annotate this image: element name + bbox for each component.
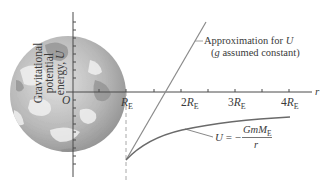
tick-label-4RE: 4RE	[281, 96, 299, 111]
approximation-line	[126, 22, 206, 160]
x-axis-symbol: r	[315, 85, 320, 97]
svg-text:U = −: U = −	[215, 131, 241, 143]
tick-label-2RE: 2RE	[181, 96, 199, 111]
formula-leader	[185, 129, 213, 137]
origin-label: O	[62, 94, 71, 106]
svg-text:r: r	[254, 139, 259, 150]
potential-formula: U = − GmME r	[215, 124, 272, 150]
approximation-label-line1: Approximation for U	[204, 35, 295, 46]
gravitational-potential-energy-diagram: Gravitational potential energy, U O r RE…	[0, 0, 333, 186]
approximation-label-line2: (g assumed constant)	[211, 47, 300, 59]
tick-label-3RE: 3RE	[228, 96, 246, 111]
svg-text:GmME: GmME	[243, 124, 272, 138]
y-label-line3: energy, U	[54, 50, 67, 95]
